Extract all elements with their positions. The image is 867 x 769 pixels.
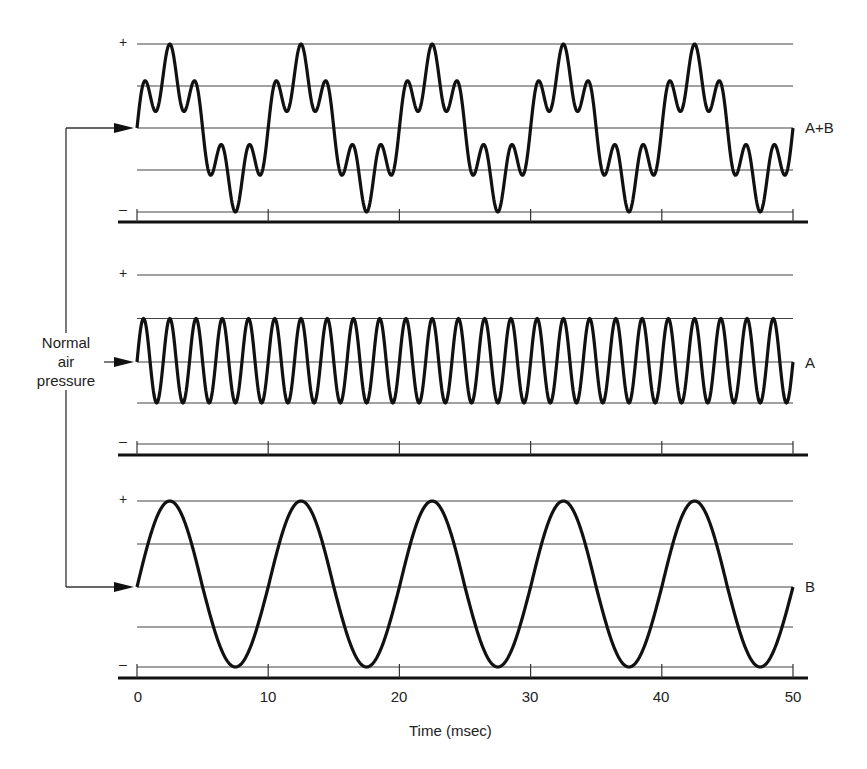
x-tick-label: 0 xyxy=(134,688,142,705)
plus-sign: + xyxy=(119,265,127,281)
minus-sign: – xyxy=(119,201,127,217)
panel-a-gridlines xyxy=(118,275,808,455)
x-axis-label: Time (msec) xyxy=(409,722,492,739)
x-tick-label: 10 xyxy=(260,688,277,705)
minus-sign: – xyxy=(119,656,127,672)
normal-air-pressure-label: Normal air pressure xyxy=(28,333,104,390)
wave-a xyxy=(137,319,793,404)
x-tick-label: 40 xyxy=(653,688,670,705)
waveform-figure xyxy=(0,0,867,769)
arrow-icon xyxy=(114,123,134,133)
panel-label-ab: A+B xyxy=(805,119,834,136)
panel-label-a: A xyxy=(805,354,815,371)
panel-label-b: B xyxy=(805,578,815,595)
plus-sign: + xyxy=(119,34,127,50)
plus-sign: + xyxy=(119,491,127,507)
panel-ab-gridlines xyxy=(118,44,808,222)
minus-sign: – xyxy=(119,433,127,449)
x-tick-label: 30 xyxy=(522,688,539,705)
wave-b xyxy=(137,501,793,667)
arrow-icon xyxy=(114,357,134,367)
arrow-icon xyxy=(114,582,134,592)
x-tick-label: 50 xyxy=(785,688,802,705)
x-tick-label: 20 xyxy=(391,688,408,705)
